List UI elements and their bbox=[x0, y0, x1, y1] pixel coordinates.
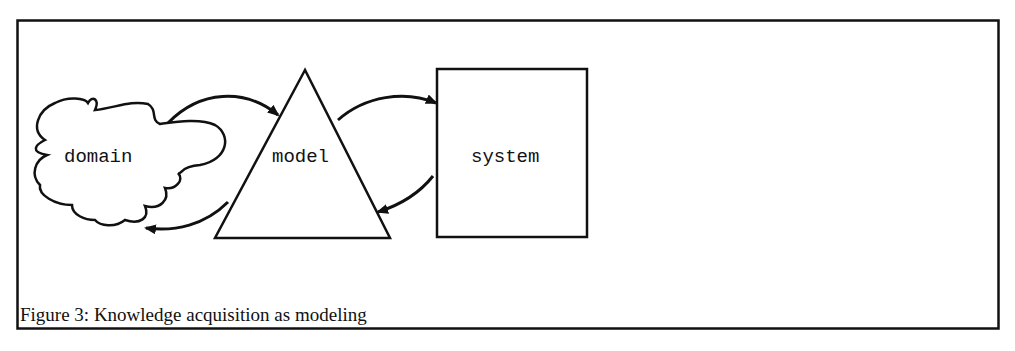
arrow-system-to-model bbox=[378, 176, 433, 212]
figure-caption: Figure 3: Knowledge acquisition as model… bbox=[20, 304, 367, 326]
system-label: system bbox=[471, 146, 539, 168]
domain-node: domain bbox=[35, 98, 225, 225]
figure-diagram: domain model system bbox=[0, 0, 1015, 351]
model-label: model bbox=[272, 146, 329, 168]
model-node: model bbox=[215, 70, 390, 238]
arrow-domain-to-model bbox=[168, 96, 278, 123]
arrow-model-to-system bbox=[338, 96, 436, 120]
domain-label: domain bbox=[64, 146, 132, 168]
figure-frame bbox=[18, 21, 999, 329]
system-node: system bbox=[437, 69, 587, 237]
